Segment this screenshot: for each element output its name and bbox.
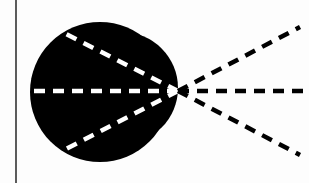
blob-right-lobe [66, 32, 178, 144]
ray-diagram [0, 0, 309, 183]
outer-dashed-rays [178, 27, 309, 155]
outer-lower-ray [178, 91, 300, 155]
diagram-canvas [0, 0, 309, 183]
outer-upper-ray [178, 27, 300, 91]
